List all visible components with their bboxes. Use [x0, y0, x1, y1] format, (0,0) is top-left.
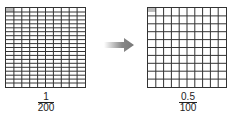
- grid-200-cells: [5, 7, 86, 88]
- denominator: 200: [33, 103, 59, 113]
- denominator: 100: [175, 103, 201, 113]
- fraction-left: 1 200: [33, 92, 59, 113]
- grid-lines-right: [148, 8, 226, 87]
- numerator: 0.5: [175, 92, 201, 102]
- grid-lines-left: [6, 8, 85, 87]
- fraction-right: 0.5 100: [175, 92, 201, 113]
- numerator: 1: [33, 92, 59, 102]
- arrow-right-icon: [104, 38, 134, 52]
- grid-100-cells: [147, 7, 227, 88]
